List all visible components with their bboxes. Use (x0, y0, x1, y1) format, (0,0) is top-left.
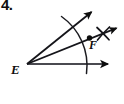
ray-upper (27, 12, 92, 64)
geometry-figure: 4. E F (0, 0, 124, 104)
angle-bisector-construction-diagram (0, 0, 124, 104)
vertex-label-E: E (11, 63, 20, 76)
angle-rays-group (27, 12, 117, 64)
point-label-F: F (89, 39, 97, 51)
crossing-arcs-x-mark (97, 27, 110, 40)
